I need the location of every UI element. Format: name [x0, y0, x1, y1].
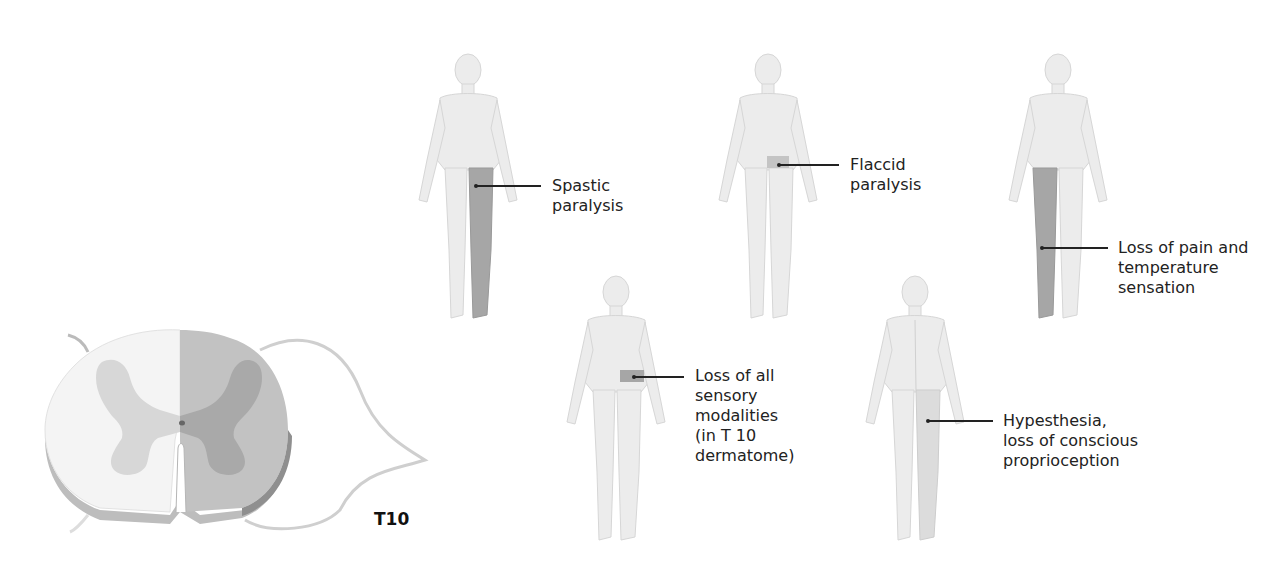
label-loss-all-sensory: Loss of all sensory modalities (in T 10 …: [695, 366, 794, 466]
leader-line: [634, 376, 684, 378]
label-loss-pain-temperature: Loss of pain and temperature sensation: [1118, 238, 1248, 298]
body-figure-all-sensory: [568, 272, 698, 552]
human-body-icon: [705, 50, 835, 330]
human-body-icon: [995, 50, 1125, 330]
leader-line: [779, 164, 839, 166]
leader-line: [928, 420, 993, 422]
human-body-icon: [568, 272, 698, 552]
segment-label: T10: [374, 509, 409, 529]
leader-line: [1042, 247, 1108, 249]
body-figure-spastic: [405, 50, 535, 330]
leader-dot: [1040, 246, 1044, 250]
human-body-icon: [405, 50, 535, 330]
leader-line: [476, 185, 541, 187]
leader-dot: [926, 419, 930, 423]
label-flaccid-paralysis: Flaccid paralysis: [850, 155, 921, 195]
label-hypesthesia: Hypesthesia, loss of conscious proprioce…: [1003, 411, 1138, 471]
leader-dot: [777, 163, 781, 167]
body-figure-pain-temperature: [995, 50, 1125, 330]
human-body-icon: [860, 272, 990, 552]
leader-dot: [474, 184, 478, 188]
leader-dot: [632, 375, 636, 379]
body-figure-hypesthesia: [860, 272, 990, 552]
label-spastic-paralysis: Spastic paralysis: [552, 176, 623, 216]
body-figure-flaccid: [705, 50, 835, 330]
